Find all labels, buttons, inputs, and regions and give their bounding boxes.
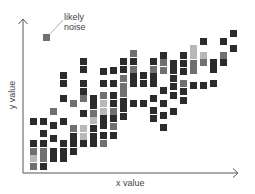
heatmap-cell <box>160 52 167 59</box>
heatmap-cell <box>170 108 177 115</box>
heatmap-cell <box>90 140 97 147</box>
heatmap-cell <box>220 52 227 59</box>
heatmap-cell <box>160 100 167 107</box>
heatmap-cell <box>60 118 67 125</box>
x-axis-label: x value <box>116 178 145 188</box>
heatmap-cell <box>50 155 57 162</box>
heatmap-cell <box>140 100 147 107</box>
heatmap-cell <box>30 163 37 170</box>
heatmap-cell <box>190 67 197 74</box>
heatmap-cells <box>30 30 237 170</box>
heatmap-cell <box>60 155 67 162</box>
heatmap-cell <box>130 80 137 87</box>
heatmap-cell <box>110 115 117 122</box>
heatmap-cell <box>110 108 117 115</box>
heatmap-cell <box>130 66 137 73</box>
heatmap-cell <box>30 118 37 125</box>
heatmap-cell <box>90 133 97 140</box>
noise-leader-line <box>50 20 63 34</box>
noise-annotation-line1: likely <box>64 12 86 22</box>
heatmap-cell <box>180 80 187 87</box>
heatmap-cell <box>120 98 127 105</box>
heatmap-cell <box>160 87 167 94</box>
heatmap-cell <box>80 95 87 102</box>
heatmap-cell <box>150 58 157 65</box>
heatmap-cell <box>80 88 87 95</box>
heatmap-cell <box>60 72 67 79</box>
heatmap-cell <box>100 140 107 147</box>
plot-area <box>0 0 255 194</box>
heatmap-cell <box>70 100 77 107</box>
heatmap-cell <box>110 80 117 87</box>
heatmap-cell <box>200 82 207 89</box>
heatmap-cell <box>230 45 237 52</box>
heatmap-cell <box>80 58 87 65</box>
heatmap-cell <box>170 83 177 90</box>
heatmap-cell <box>100 80 107 87</box>
heatmap-cell <box>160 112 167 119</box>
y-axis-label: y value <box>7 81 17 110</box>
heatmap-cell <box>70 140 77 147</box>
heatmap-cell <box>50 148 57 155</box>
heatmap-cell <box>130 73 137 80</box>
heatmap-cell <box>40 140 47 147</box>
heatmap-cell <box>40 155 47 162</box>
heatmap-cell <box>190 60 197 67</box>
heatmap-cell <box>150 73 157 80</box>
heatmap-cell <box>160 124 167 131</box>
heatmap-cell <box>120 83 127 90</box>
heatmap-cell <box>100 68 107 75</box>
heatmap-cell <box>120 75 127 82</box>
heatmap-cell <box>140 80 147 87</box>
heatmap-cell <box>210 80 217 87</box>
heatmap-cell <box>180 88 187 95</box>
heatmap-cell <box>100 122 107 129</box>
heatmap-cell <box>50 135 57 142</box>
noise-annotation-line2: noise <box>64 22 86 32</box>
heatmap-cell <box>120 105 127 112</box>
heatmap-cell <box>60 140 67 147</box>
heatmap-cell <box>200 52 207 59</box>
heatmap-cell <box>100 115 107 122</box>
heatmap-cell <box>30 148 37 155</box>
heatmap-cell <box>80 66 87 73</box>
heatmap-cell <box>110 100 117 107</box>
heatmap-cell <box>70 148 77 155</box>
heatmap-cell <box>180 60 187 67</box>
heatmap-cell <box>80 80 87 87</box>
heatmap-cell <box>30 155 37 162</box>
heatmap-cell <box>50 108 57 115</box>
heatmap-cell <box>40 148 47 155</box>
heatmap-cell <box>200 59 207 66</box>
heatmap-cell <box>130 100 137 107</box>
heatmap-cell <box>70 125 77 132</box>
heatmap-cell <box>60 80 67 87</box>
heatmap-cell <box>170 75 177 82</box>
heatmap-cell <box>160 59 167 66</box>
heatmap-cell <box>110 67 117 74</box>
heatmap-cell <box>190 82 197 89</box>
heatmap-cell <box>110 92 117 99</box>
heatmap-cell <box>140 72 147 79</box>
heatmap-cell <box>150 66 157 73</box>
heatmap-cell <box>120 66 127 73</box>
heatmap-cell <box>150 80 157 87</box>
heatmap-cell <box>100 132 107 139</box>
heatmap-cell <box>230 30 237 37</box>
heatmap-cell <box>100 100 107 107</box>
heatmap-cell <box>120 113 127 120</box>
heatmap-cell <box>80 110 87 117</box>
heatmap-cell <box>130 58 137 65</box>
heatmap-cell <box>110 132 117 139</box>
heatmap-cell <box>150 107 157 114</box>
heatmap-cell <box>190 45 197 52</box>
heatmap-cell <box>90 110 97 117</box>
heatmap-cell <box>50 122 57 129</box>
heatmap-cell <box>60 148 67 155</box>
heatmap-cell <box>110 123 117 130</box>
heatmap-cell <box>90 117 97 124</box>
heatmap-cell <box>120 58 127 65</box>
heatmap-cell <box>30 140 37 147</box>
heatmap-cell <box>160 67 167 74</box>
heatmap-cell <box>200 38 207 45</box>
